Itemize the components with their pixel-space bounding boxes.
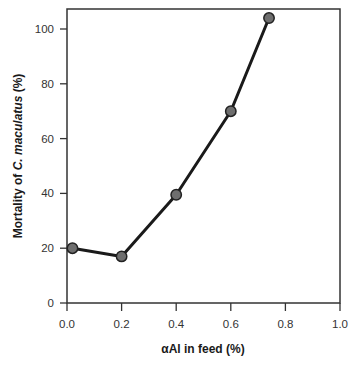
y-axis-title-prefix: Mortality of: [11, 170, 25, 238]
data-point-marker: [226, 106, 236, 116]
data-point-marker: [264, 13, 274, 23]
x-tick-label: 0.0: [59, 318, 75, 330]
y-tick-label: 60: [41, 133, 54, 145]
data-line: [73, 18, 270, 256]
x-axis-ticks: 0.00.20.40.60.81.0: [59, 303, 348, 330]
y-tick-label: 40: [41, 187, 54, 199]
data-markers: [67, 13, 274, 262]
x-tick-label: 1.0: [332, 318, 348, 330]
x-tick-label: 0.2: [114, 318, 130, 330]
data-point-marker: [116, 251, 126, 261]
chart: 020406080100 0.00.20.40.60.81.0 αAl in f…: [0, 0, 357, 369]
y-axis-ticks: 020406080100: [35, 23, 67, 309]
y-tick-label: 100: [35, 23, 54, 35]
x-tick-label: 0.8: [277, 318, 293, 330]
y-tick-label: 0: [48, 297, 54, 309]
x-tick-label: 0.4: [168, 318, 185, 330]
y-tick-label: 20: [41, 242, 54, 254]
data-point-marker: [171, 190, 181, 200]
x-axis-title: αAl in feed (%): [161, 342, 244, 356]
x-tick-label: 0.6: [223, 318, 239, 330]
y-axis-title: Mortality of C. maculatus (%): [11, 74, 25, 239]
y-axis-title-species: C. maculatus: [11, 95, 25, 170]
plot-frame: [67, 9, 340, 303]
y-axis-title-suffix: (%): [11, 74, 25, 96]
y-tick-label: 80: [41, 78, 54, 90]
data-point-marker: [67, 243, 77, 253]
